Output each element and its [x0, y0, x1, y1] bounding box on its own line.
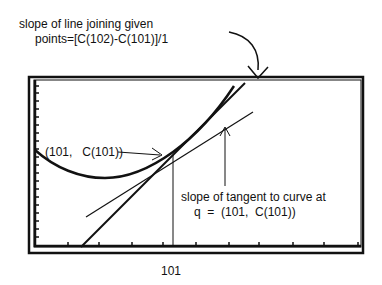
outer-frame	[29, 77, 363, 253]
point-arrowhead-icon	[152, 148, 162, 160]
point-label: (101, C(101))	[45, 145, 123, 159]
point-pointer-arrow	[118, 152, 160, 155]
inner-frame	[34, 80, 361, 247]
secant-line	[81, 83, 245, 247]
cost-curve	[35, 86, 234, 178]
secant-annotation-line1: slope of line joining given	[19, 17, 153, 31]
tangent-annotation-line1: slope of tangent to curve at	[181, 190, 326, 204]
secant-pointer-arrow	[229, 32, 258, 70]
secant-annotation-line2: points=[C(102)-C(101)]/1	[35, 32, 168, 46]
x-tick-label-101: 101	[161, 264, 181, 278]
tangent-annotation-line2: q = (101, C(101))	[194, 205, 296, 219]
